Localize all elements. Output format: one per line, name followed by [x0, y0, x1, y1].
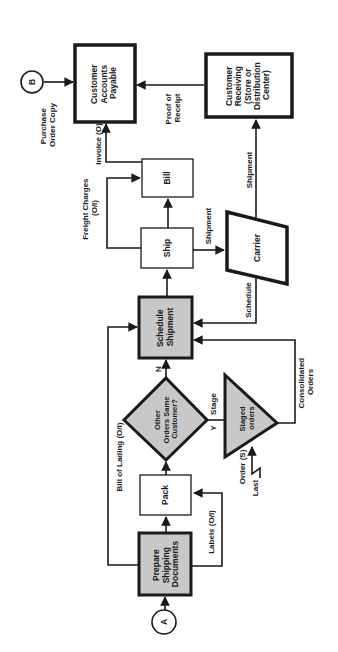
edge-freight-charges — [107, 178, 141, 248]
label-labels: Labels (O/I) — [207, 510, 216, 554]
node-decision-other-orders: Other Orders Same Customer? — [124, 378, 207, 460]
label-shipment-2: Shipment — [245, 151, 254, 188]
svg-text:Consolidated Orders: Consolidated Orders — [297, 356, 315, 409]
bill-label: Bill — [162, 171, 172, 184]
prepare-line-2: Shipping — [161, 547, 171, 583]
label-purchase: Purchase — [39, 108, 48, 145]
label-freight-charges: Freight Charges — [81, 178, 90, 240]
schedule-shipment-line-1: Schedule — [155, 309, 165, 347]
edge-order-lightning — [252, 447, 260, 478]
label-n: N — [154, 366, 163, 372]
connector-b-label: B — [27, 79, 37, 85]
label-stage: Stage — [209, 393, 218, 415]
receiving-line-5: Center) — [261, 70, 271, 100]
svg-text:Schedule Shipment: Schedule Shipment — [155, 307, 175, 347]
prepare-line-3: Documents — [170, 541, 180, 588]
label-order-s: Order (S) — [238, 449, 247, 484]
svg-text:Prepare Shipping D: Prepare Shipping Documents — [151, 541, 180, 588]
label-y: Y — [209, 425, 218, 431]
label-consolidated: Consolidated — [297, 358, 306, 409]
node-pack: Pack — [140, 475, 191, 515]
node-ship: Ship — [141, 228, 193, 268]
connector-b: B — [21, 71, 43, 93]
connector-a: A — [152, 610, 176, 634]
label-orders: Orders — [306, 368, 315, 395]
label-last: Last — [251, 479, 260, 496]
node-schedule-shipment: Schedule Shipment — [139, 297, 192, 358]
label-schedule: Schedule — [244, 282, 253, 318]
decision-line-3: Customer? — [170, 399, 179, 439]
ap-line-3: Payable — [108, 67, 118, 99]
label-bill-of-lading: Bill of Lading (O/I) — [115, 422, 124, 491]
connector-a-label: A — [159, 619, 169, 625]
label-shipment-1: Shipment — [204, 207, 213, 244]
carrier-label: Carrier — [252, 233, 262, 262]
edge-invoice — [106, 124, 142, 162]
schedule-shipment-line-2: Shipment — [165, 307, 175, 346]
node-bill: Bill — [142, 159, 193, 197]
node-carrier: Carrier — [227, 212, 287, 284]
svg-text:Staged orders: Staged orders — [238, 404, 256, 431]
shipping-process-flowchart: B Customer Accounts Payable Customer Rec… — [0, 0, 338, 652]
ship-label: Ship — [162, 239, 172, 257]
label-receipt: Receipt — [173, 93, 182, 122]
ap-line-2: Accounts — [99, 65, 109, 104]
node-customer-receiving: Customer Receiving (Store or Distributio… — [206, 54, 292, 117]
svg-text:Purchase Order Copy: Purchase Order Copy — [39, 102, 57, 147]
label-invoice: Invoice (O) — [94, 123, 103, 165]
staged-line-2: orders — [247, 406, 256, 429]
svg-text:Freight Charges (O/I): Freight Charges (O/I) — [81, 176, 99, 240]
pack-label: Pack — [160, 485, 170, 505]
node-prepare-shipping-documents: Prepare Shipping Documents — [139, 533, 191, 595]
node-staged-orders: Staged orders — [225, 375, 277, 457]
label-order-copy: Order Copy — [48, 102, 57, 147]
prepare-line-1: Prepare — [151, 549, 161, 581]
label-freight-oi: (O/I) — [90, 200, 99, 216]
node-customer-accounts-payable: Customer Accounts Payable — [75, 45, 135, 122]
svg-text:Proof of Receipt: Proof of Receipt — [164, 92, 182, 125]
svg-text:Customer Accounts: Customer Accounts Payable — [89, 62, 118, 104]
label-proof-of: Proof of — [164, 93, 173, 124]
ap-line-1: Customer — [89, 64, 99, 104]
